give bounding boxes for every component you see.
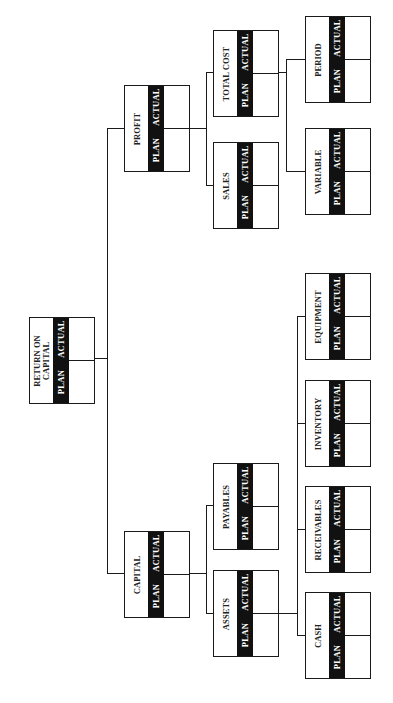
connector-assets-trunk	[297, 316, 298, 636]
node-profit: PROFIT PLAN ACTUAL	[124, 85, 190, 172]
value-cells	[69, 318, 94, 403]
node-label-text: PROFIT	[132, 112, 141, 145]
connector-to-assets	[206, 613, 213, 614]
plan-actual-band: PLAN ACTUAL	[237, 31, 253, 116]
plan-label: PLAN	[151, 584, 161, 608]
connector-assets-out	[277, 613, 297, 614]
actual-label: ACTUAL	[332, 276, 342, 314]
plan-label: PLAN	[332, 69, 342, 93]
plan-value-cell	[345, 636, 370, 678]
node-label-text: CASH	[313, 623, 322, 647]
plan-value-cell	[253, 186, 278, 228]
plan-label: PLAN	[332, 433, 342, 457]
node-label-text: ASSETS	[221, 597, 230, 629]
actual-label: ACTUAL	[332, 131, 342, 169]
connector-to-inventory	[297, 423, 305, 424]
connector-root-trunk	[93, 358, 107, 359]
actual-value-cell	[345, 381, 370, 424]
value-cells	[345, 487, 370, 572]
plan-actual-band: PLAN ACTUAL	[237, 464, 253, 549]
actual-label: ACTUAL	[332, 383, 342, 421]
plan-label: PLAN	[240, 516, 250, 540]
node-label-text: INVENTORY	[313, 397, 322, 449]
actual-label: ACTUAL	[151, 534, 161, 572]
connector-to-profit	[107, 128, 124, 129]
value-cells	[345, 17, 370, 102]
actual-label: ACTUAL	[151, 88, 161, 126]
plan-value-cell	[345, 172, 370, 214]
plan-actual-band: PLAN ACTUAL	[329, 593, 345, 678]
node-return-on-capital: RETURN ON CAPITAL PLAN ACTUAL	[29, 317, 95, 404]
node-label: VARIABLE	[306, 129, 329, 214]
value-cells	[345, 593, 370, 678]
node-label: CASH	[306, 593, 329, 678]
node-period: PERIOD PLAN ACTUAL	[305, 16, 371, 103]
node-label-text: RETURN ON CAPITAL	[33, 335, 51, 387]
node-label: ASSETS	[214, 571, 237, 656]
plan-value-cell	[345, 317, 370, 359]
actual-value-cell	[345, 129, 370, 172]
actual-value-cell	[253, 464, 278, 507]
plan-label: PLAN	[240, 83, 250, 107]
node-label-text: PAYABLES	[221, 485, 230, 529]
actual-label: ACTUAL	[56, 320, 66, 358]
actual-value-cell	[345, 487, 370, 530]
plan-label: PLAN	[240, 195, 250, 219]
plan-actual-band: PLAN ACTUAL	[237, 143, 253, 228]
actual-label: ACTUAL	[332, 595, 342, 633]
actual-label: ACTUAL	[332, 489, 342, 527]
plan-value-cell	[69, 361, 94, 403]
node-label-text: TOTAL COST	[221, 46, 230, 101]
node-label: TOTAL COST	[214, 31, 237, 116]
plan-actual-band: PLAN ACTUAL	[148, 532, 164, 617]
node-label-text: VARIABLE	[313, 149, 322, 194]
value-cells	[345, 381, 370, 466]
connector-to-total-cost	[206, 72, 213, 73]
plan-label: PLAN	[332, 326, 342, 350]
plan-actual-band: PLAN ACTUAL	[329, 129, 345, 214]
actual-value-cell	[164, 532, 189, 575]
plan-actual-band: PLAN ACTUAL	[237, 571, 253, 656]
node-label: SALES	[214, 143, 237, 228]
node-equipment: EQUIPMENT PLAN ACTUAL	[305, 273, 371, 360]
plan-actual-band: PLAN ACTUAL	[329, 381, 345, 466]
actual-value-cell	[345, 593, 370, 636]
plan-actual-band: PLAN ACTUAL	[329, 487, 345, 572]
connector-to-sales	[206, 185, 213, 186]
actual-value-cell	[345, 17, 370, 60]
connector-to-period	[286, 59, 305, 60]
connector-to-receivables	[297, 529, 305, 530]
node-capital: CAPITAL PLAN ACTUAL	[124, 531, 190, 618]
plan-label: PLAN	[240, 623, 250, 647]
plan-label: PLAN	[151, 138, 161, 162]
plan-label: PLAN	[56, 370, 66, 394]
value-cells	[253, 143, 278, 228]
plan-actual-band: PLAN ACTUAL	[329, 274, 345, 359]
plan-value-cell	[253, 74, 278, 116]
value-cells	[164, 86, 189, 171]
node-label-text: EQUIPMENT	[313, 290, 322, 343]
plan-value-cell	[253, 614, 278, 656]
value-cells	[345, 274, 370, 359]
node-total-cost: TOTAL COST PLAN ACTUAL	[213, 30, 279, 117]
plan-label: PLAN	[332, 539, 342, 563]
connector-to-variable	[286, 171, 305, 172]
connector-capital-trunk	[206, 505, 207, 614]
node-label: PAYABLES	[214, 464, 237, 549]
plan-value-cell	[253, 507, 278, 549]
plan-value-cell	[164, 129, 189, 171]
value-cells	[253, 571, 278, 656]
value-cells	[253, 31, 278, 116]
plan-actual-band: PLAN ACTUAL	[53, 318, 69, 403]
node-label-text: PERIOD	[313, 43, 322, 77]
actual-label: ACTUAL	[332, 19, 342, 57]
actual-label: ACTUAL	[240, 573, 250, 611]
node-label: INVENTORY	[306, 381, 329, 466]
node-label: EQUIPMENT	[306, 274, 329, 359]
actual-value-cell	[345, 274, 370, 317]
plan-value-cell	[345, 424, 370, 466]
node-label: RECEIVABLES	[306, 487, 329, 572]
node-inventory: INVENTORY PLAN ACTUAL	[305, 380, 371, 467]
connector-profit-out	[189, 128, 206, 129]
connector-to-equipment	[297, 316, 305, 317]
